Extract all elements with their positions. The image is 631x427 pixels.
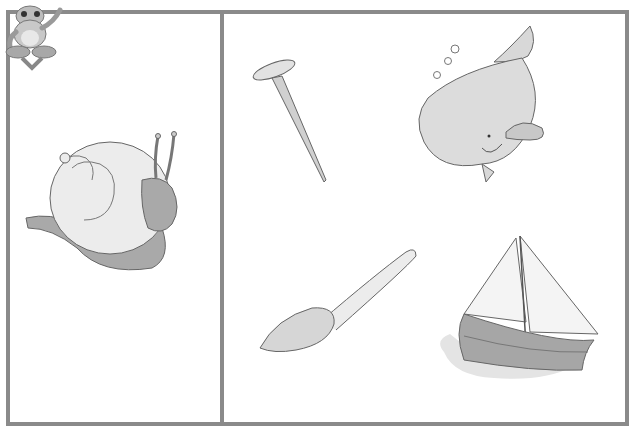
snail-icon[interactable] [22,128,187,278]
frog-mascot-icon [2,2,68,74]
nail-icon[interactable] [250,56,330,186]
whale-icon[interactable] [410,22,550,187]
spoon-icon[interactable] [256,244,421,356]
sailboat-icon[interactable] [434,232,614,382]
